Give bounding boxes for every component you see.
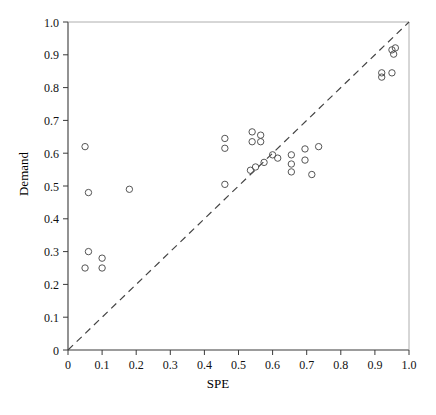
data-point [99, 265, 105, 271]
data-point [85, 248, 91, 254]
data-point [389, 70, 395, 76]
identity-line [68, 22, 409, 350]
data-point [99, 255, 105, 261]
data-point [252, 164, 258, 170]
figure-container: 00.10.20.30.40.50.60.70.80.91.000.10.20.… [0, 0, 436, 415]
data-point [222, 135, 228, 141]
data-point [390, 51, 396, 57]
x-tick-label: 0.2 [129, 358, 144, 372]
x-tick-label: 0.7 [299, 358, 314, 372]
data-point [249, 139, 255, 145]
scatter-plot-svg: 00.10.20.30.40.50.60.70.80.91.000.10.20.… [0, 0, 436, 415]
data-point [288, 152, 294, 158]
y-tick-label: 0.2 [44, 278, 59, 292]
x-tick-label: 1.0 [402, 358, 417, 372]
y-tick-label: 0.6 [44, 147, 59, 161]
y-tick-label: 1.0 [44, 16, 59, 30]
data-point [85, 189, 91, 195]
y-tick-label: 0.3 [44, 245, 59, 259]
x-tick-label: 0.9 [367, 358, 382, 372]
data-point [82, 143, 88, 149]
x-axis-title: SPE [0, 376, 436, 392]
data-point [275, 155, 281, 161]
y-tick-label: 0.9 [44, 48, 59, 62]
data-point [222, 181, 228, 187]
y-tick-label: 0.4 [44, 212, 59, 226]
y-tick-label: 0.5 [44, 180, 59, 194]
data-point [309, 171, 315, 177]
y-tick-label: 0.8 [44, 81, 59, 95]
data-point [379, 74, 385, 80]
y-tick-label: 0.7 [44, 114, 59, 128]
data-point [288, 169, 294, 175]
y-axis-title: Demand [16, 144, 32, 204]
data-point [288, 161, 294, 167]
tick-labels-group: 00.10.20.30.40.50.60.70.80.91.000.10.20.… [44, 16, 417, 373]
data-point [315, 143, 321, 149]
x-tick-label: 0.1 [95, 358, 110, 372]
x-tick-label: 0 [65, 358, 71, 372]
y-tick-label: 0 [53, 344, 59, 358]
identity-reference-line [68, 22, 409, 350]
data-points-group [82, 45, 399, 271]
data-point [261, 159, 267, 165]
data-point [302, 157, 308, 163]
y-tick-label: 0.1 [44, 311, 59, 325]
x-tick-label: 0.5 [231, 358, 246, 372]
x-tick-label: 0.6 [265, 358, 280, 372]
data-point [249, 129, 255, 135]
data-point [257, 132, 263, 138]
data-point [257, 139, 263, 145]
x-tick-label: 0.4 [197, 358, 212, 372]
data-point [126, 186, 132, 192]
data-point [222, 145, 228, 151]
data-point [302, 146, 308, 152]
x-tick-label: 0.3 [163, 358, 178, 372]
data-point [82, 265, 88, 271]
x-tick-label: 0.8 [333, 358, 348, 372]
